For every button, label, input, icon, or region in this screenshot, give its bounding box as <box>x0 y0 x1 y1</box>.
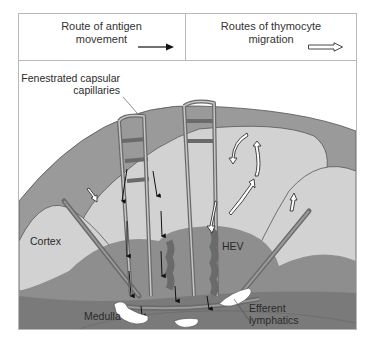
legend-antigen: Route of antigen movement <box>18 13 186 60</box>
label-medulla: Medulla <box>84 310 121 322</box>
legend-antigen-line1: Route of antigen <box>18 20 185 33</box>
legend-thymocyte-line1: Routes of thymocyte <box>186 20 356 33</box>
hollow-arrow-icon <box>308 42 344 52</box>
label-efferent-lymphatics: Efferent lymphatics <box>249 302 299 326</box>
label-capillaries: Fenestrated capsular capillaries <box>20 72 120 96</box>
label-hev: HEV <box>222 240 244 252</box>
label-capillaries-line2: capillaries <box>20 84 120 96</box>
thymus-lobule-diagram <box>19 61 356 329</box>
solid-arrow-icon <box>138 43 174 51</box>
capillary-leader <box>123 97 137 113</box>
label-cortex: Cortex <box>30 235 61 247</box>
label-efferent-line2: lymphatics <box>249 314 299 326</box>
label-capillaries-line1: Fenestrated capsular <box>20 72 120 84</box>
hev-vessel <box>213 231 215 295</box>
legend-thymocyte: Routes of thymocyte migration <box>186 13 356 60</box>
legend-panel: Route of antigen movement Routes of thym… <box>18 13 357 61</box>
label-efferent-line1: Efferent <box>249 302 299 314</box>
